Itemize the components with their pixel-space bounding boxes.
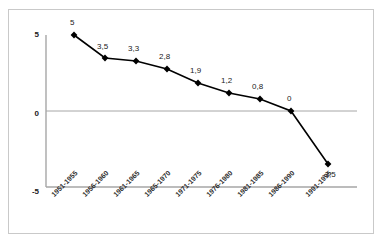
data-point-label: 5: [70, 19, 74, 27]
y-axis-tick-label: -5: [17, 188, 39, 196]
data-point-label: 2,8: [159, 53, 170, 61]
data-point-label: 1,2: [221, 77, 232, 85]
data-point-label: 1,9: [190, 67, 201, 75]
data-point-marker: [195, 80, 202, 87]
plot-area: 5 0 -5 5 3,5 3,3 2,8 1,9 1,2 0,8 0 -3,5 …: [9, 10, 375, 235]
data-point-label: 0: [287, 95, 291, 103]
data-point-label: 3,5: [97, 43, 108, 51]
data-point-marker: [164, 66, 171, 73]
y-axis-tick-label: 5: [17, 31, 39, 39]
line-chart-graphic: [9, 10, 375, 235]
data-point-label: 0,8: [252, 83, 263, 91]
data-point-markers: [71, 32, 332, 168]
data-point-marker: [257, 96, 264, 103]
data-point-label: 3,3: [128, 45, 139, 53]
y-axis-tick-label: 0: [17, 110, 39, 118]
chart-frame: 5 0 -5 5 3,5 3,3 2,8 1,9 1,2 0,8 0 -3,5 …: [8, 9, 374, 234]
data-point-marker: [133, 58, 140, 65]
data-point-marker: [226, 90, 233, 97]
